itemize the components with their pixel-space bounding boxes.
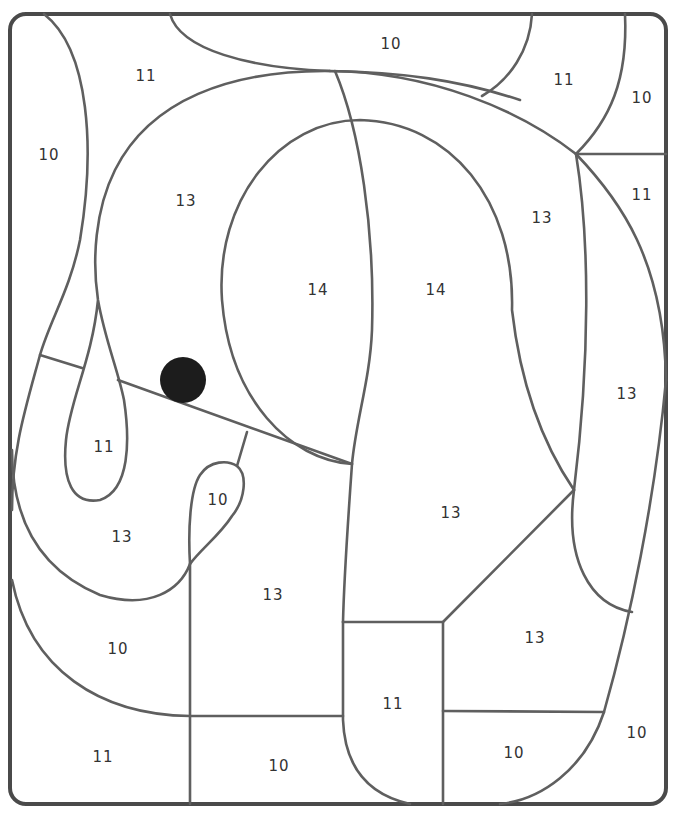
region-boundary [443, 711, 604, 712]
region-boundary [576, 14, 625, 154]
foot-outline [343, 622, 410, 804]
region-boundary [237, 432, 247, 466]
region-number: 10 [268, 757, 289, 775]
region-number: 10 [207, 491, 228, 509]
region-boundary [170, 14, 520, 100]
page-frame [10, 14, 666, 804]
region-number: 13 [262, 586, 283, 604]
region-number: 10 [631, 89, 652, 107]
region-number: 13 [531, 209, 552, 227]
region-number: 14 [307, 281, 328, 299]
region-number: 13 [524, 629, 545, 647]
region-number: 11 [553, 71, 574, 89]
region-number: 10 [380, 35, 401, 53]
foot-outline [343, 622, 443, 804]
coloring-lineart: 11 10 11 10 10 11 13 13 14 14 13 11 10 1… [0, 0, 676, 819]
region-number: 13 [111, 528, 132, 546]
region-number: 14 [425, 281, 446, 299]
trunk-curl-outline [12, 450, 190, 600]
coloring-page: 11 10 11 10 10 11 13 13 14 14 13 11 10 1… [0, 0, 676, 819]
region-boundary [12, 14, 88, 510]
region-number: 11 [93, 438, 114, 456]
region-boundary [443, 490, 574, 622]
jaw-line [118, 380, 352, 464]
region-boundary [482, 14, 532, 96]
ear-divider [335, 71, 372, 622]
region-boundary [40, 355, 82, 368]
mouth-outline [189, 462, 243, 564]
trunk-outline [572, 154, 632, 612]
head-outline [65, 71, 330, 501]
region-number: 11 [92, 748, 113, 766]
region-number: 11 [631, 186, 652, 204]
region-number: 10 [38, 146, 59, 164]
region-boundary [12, 580, 343, 716]
ear-outline [221, 120, 574, 490]
region-number: 11 [382, 695, 403, 713]
region-number: 10 [626, 724, 647, 742]
region-number: 13 [175, 192, 196, 210]
region-number: 11 [135, 67, 156, 85]
region-number: 13 [440, 504, 461, 522]
elephant-eye [160, 357, 206, 403]
region-number: 13 [616, 385, 637, 403]
region-number: 10 [107, 640, 128, 658]
region-number: 10 [503, 744, 524, 762]
